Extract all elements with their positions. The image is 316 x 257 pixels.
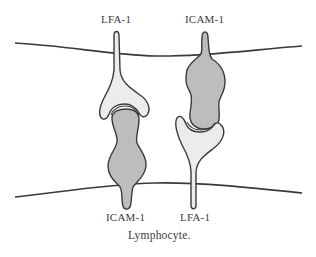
adhesion-diagram: LFA-1 ICAM-1 ICAM-1 LFA-1 Lymphocyte. xyxy=(0,0,316,257)
diagram-canvas xyxy=(0,0,316,257)
icam1-top-right xyxy=(186,32,225,129)
label-icam1-bottom: ICAM-1 xyxy=(106,211,145,223)
bottom-membrane xyxy=(15,183,302,197)
label-icam1-top: ICAM-1 xyxy=(185,13,224,25)
caption-lymphocyte: Lymphocyte. xyxy=(128,229,191,241)
top-membrane xyxy=(15,43,302,56)
label-lfa1-top: LFA-1 xyxy=(101,13,131,25)
icam1-bottom-left xyxy=(108,109,146,209)
label-lfa1-bottom: LFA-1 xyxy=(180,211,210,223)
